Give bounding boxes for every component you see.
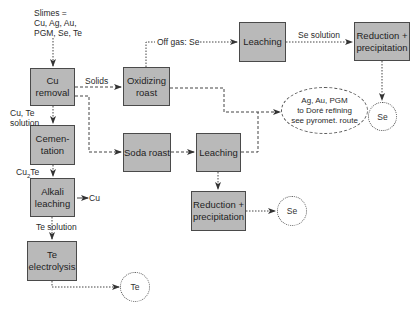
node-reduction-mid[interactable]: Reduction +precipitation (191, 191, 246, 231)
node-reduction-top[interactable]: Reduction +precipitation (354, 22, 410, 61)
feed-line-3: PGM, Se, Te (34, 28, 82, 38)
node-text: Alkali (35, 186, 70, 198)
node-text: Cu (36, 75, 70, 87)
edge-leaching-mid-to-precious (241, 112, 258, 152)
node-text: electrolysis (29, 261, 76, 273)
product-precious-metals-ellipse: Ag, Au, PGM to Doré refining see pyromet… (281, 87, 368, 134)
node-cementation[interactable]: Cemen-tation (30, 125, 75, 165)
edge-label-cu-out: Cu (89, 193, 100, 203)
node-text: Reduction + (356, 30, 407, 42)
node-text: tation (36, 145, 70, 157)
product-se-top-label: Se (377, 112, 387, 122)
node-text: Leaching (199, 147, 238, 159)
node-text: roast (127, 87, 166, 99)
node-soda-roast[interactable]: Soda roast (123, 133, 171, 172)
edge-label-se-solution: Se solution (298, 30, 340, 40)
feed-line-1: Slimes = (34, 8, 82, 18)
edge-oxidizing-to-precious (170, 88, 280, 112)
edge-label-solids: Solids (85, 76, 108, 86)
node-text: Leaching (243, 36, 282, 48)
product-se-top-circle: Se (368, 102, 397, 131)
cu-te-line-2: solution (10, 118, 39, 128)
edge-label-cu-te-solution: Cu, Te solution (10, 108, 39, 128)
product-te-circle: Te (120, 272, 150, 302)
precious-line-1: Ag, Au, PGM (291, 96, 358, 106)
product-se-mid-label: Se (287, 206, 297, 216)
edge-label-te-solution: Te solution (36, 222, 77, 232)
node-leaching-mid[interactable]: Leaching (196, 133, 241, 172)
node-alkali-leaching[interactable]: Alkalileaching (30, 178, 75, 217)
node-text: Reduction + (193, 199, 244, 211)
cu2te-base: Cu (16, 167, 27, 177)
node-cu-removal[interactable]: Curemoval (30, 68, 75, 106)
feed-line-2: Cu, Ag, Au, (34, 18, 82, 28)
node-text: Soda roast (124, 147, 170, 159)
node-te-electrolysis[interactable]: Teelectrolysis (27, 241, 77, 281)
node-text: Oxidizing (127, 75, 166, 87)
node-text: precipitation (193, 211, 244, 223)
edge-cu-removal-to-soda-roast (75, 96, 121, 152)
edge-label-off-gas: Off gas: Se (157, 37, 199, 47)
product-se-mid-circle: Se (277, 196, 307, 226)
node-text: leaching (35, 198, 70, 210)
node-leaching-top[interactable]: Leaching (239, 22, 286, 62)
precious-line-3: see pyromet. route (291, 116, 358, 126)
node-text: Cemen- (36, 133, 70, 145)
edge-label-cu2te: Cu2Te (16, 167, 39, 181)
cu2te-suffix: Te (30, 167, 39, 177)
edge-off-gas (146, 42, 155, 67)
node-oxidizing-roast[interactable]: Oxidizingroast (123, 67, 170, 106)
node-text: removal (36, 87, 70, 99)
node-text: precipitation (356, 42, 407, 54)
product-te-label: Te (131, 282, 140, 292)
precious-line-2: to Doré refining (291, 106, 358, 116)
feed-label: Slimes = Cu, Ag, Au, PGM, Se, Te (34, 8, 82, 38)
edge-te-electrolysis-to-te (52, 281, 119, 287)
node-text: Te (29, 249, 76, 261)
cu-te-line-1: Cu, Te (10, 108, 39, 118)
